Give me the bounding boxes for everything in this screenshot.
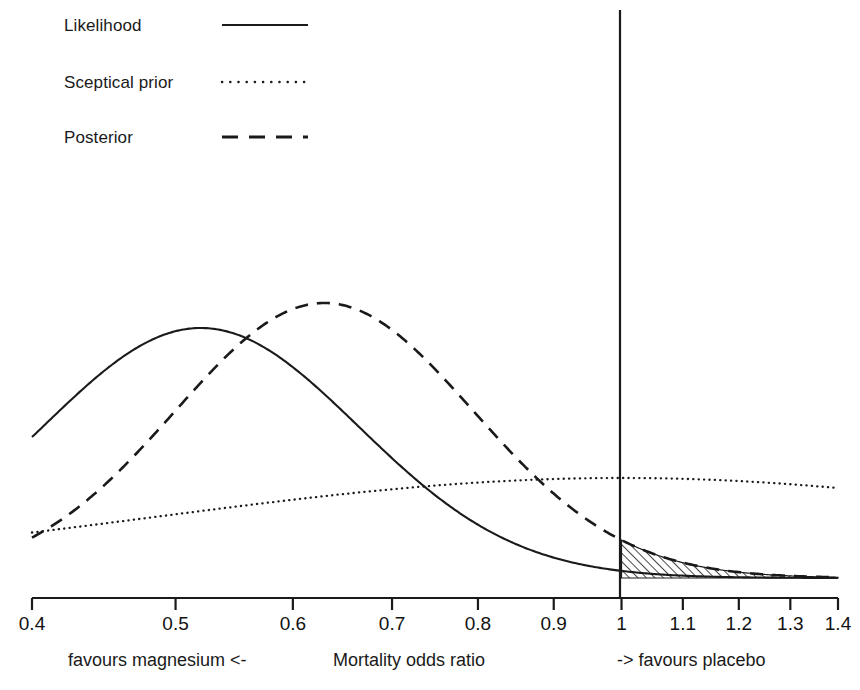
x-tick-label-0.6: 0.6 <box>263 613 323 635</box>
x-axis <box>32 598 838 610</box>
legend-label-sceptical-prior: Sceptical prior <box>64 73 173 93</box>
x-tick-label-0.5: 0.5 <box>146 613 206 635</box>
legend-label-likelihood: Likelihood <box>64 16 142 36</box>
x-tick-label-1.4: 1.4 <box>808 613 860 635</box>
x-tick-label-1.1: 1.1 <box>653 613 713 635</box>
x-tick-label-0.9: 0.9 <box>524 613 584 635</box>
caption-favours-placebo: -> favours placebo <box>617 650 766 671</box>
caption-mortality-odds-ratio: Mortality odds ratio <box>333 650 485 671</box>
chart-canvas: Likelihood Sceptical prior Posterior 0.4… <box>0 0 860 690</box>
legend-label-posterior: Posterior <box>64 128 133 148</box>
x-tick-label-0.7: 0.7 <box>362 613 422 635</box>
x-tick-label-1: 1 <box>592 613 652 635</box>
curve-sceptical-prior <box>32 478 838 533</box>
density-plot <box>0 0 860 690</box>
curve-posterior <box>32 303 838 577</box>
x-tick-label-0.8: 0.8 <box>448 613 508 635</box>
legend-line-samples <box>222 25 308 137</box>
caption-favours-magnesium: favours magnesium <- <box>68 650 247 671</box>
x-tick-label-0.4: 0.4 <box>2 613 62 635</box>
curve-likelihood <box>32 328 838 578</box>
